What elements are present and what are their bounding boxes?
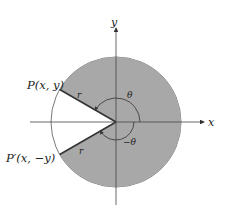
y-axis-label: y	[110, 16, 118, 29]
radius-label-lower: r	[79, 146, 84, 156]
radius-label-upper: r	[77, 90, 82, 100]
point-p-prime-label: P′(x, −y)	[5, 151, 55, 165]
unit-circle-diagram: y x P(x, y) P′(x, −y) r r θ −θ	[0, 0, 228, 211]
point-p-label: P(x, y)	[26, 78, 64, 92]
x-axis-label: x	[208, 116, 215, 129]
theta-label: θ	[127, 90, 133, 100]
neg-theta-label: −θ	[123, 137, 137, 147]
